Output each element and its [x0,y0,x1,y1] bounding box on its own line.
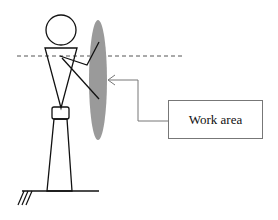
diagram-canvas: Work area [0,0,278,220]
figure-legs [47,119,72,191]
figure-hip [52,107,69,119]
work-area-label: Work area [169,101,262,138]
work-area-ellipse [89,20,107,140]
figure-head [46,15,76,45]
arrow-connector [108,80,168,121]
